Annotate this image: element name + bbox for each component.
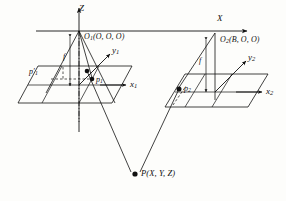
- right-ray-to-world-point: [140, 89, 179, 172]
- left-plane-gridline-v1: [42, 66, 62, 103]
- stereo-geometry-figure: Z X O1(O, O, O) O2(B, O, O) y1 x1 y2 x2 …: [0, 0, 286, 201]
- left-y1-subscript: 1: [116, 48, 119, 55]
- world-x-axis-label: X: [217, 14, 223, 23]
- right-x2-axis-label: x2: [266, 87, 273, 97]
- right-point-p2-label: p2: [184, 85, 191, 94]
- left-origin-coords: (O, O, O): [93, 32, 125, 41]
- left-y1-axis-line: [79, 54, 110, 85]
- world-point-P: [132, 171, 137, 176]
- left-point-p1-prime-label: p′1: [29, 68, 38, 77]
- left-point-p1-label: p1: [96, 76, 103, 85]
- left-origin-label: O1(O, O, O): [84, 33, 124, 42]
- left-ray-to-world-point: [87, 71, 131, 172]
- P-coords: (X, Y, Z): [146, 168, 175, 178]
- right-y2-axis-line: [215, 61, 246, 92]
- left-ray-left-edge: [46, 31, 79, 93]
- left-y1-axis-label: y1: [112, 46, 119, 56]
- left-focal-length-label: f: [63, 53, 65, 61]
- right-origin-coords: (B, O, O): [229, 35, 260, 44]
- left-x1-axis-label: x1: [130, 80, 137, 90]
- right-origin-label: O2(B, O, O): [220, 36, 260, 45]
- left-camera-group: [18, 8, 232, 172]
- left-x1-subscript: 1: [134, 82, 137, 89]
- world-z-axis-label: Z: [79, 4, 84, 13]
- p2-subscript: 2: [188, 87, 191, 93]
- right-ray-through-p2: [178, 33, 215, 89]
- right-y2-subscript: 2: [252, 55, 255, 62]
- right-focal-length-label: f: [199, 57, 201, 65]
- world-point-P-label: P(X, Y, Z): [141, 169, 175, 178]
- right-x2-subscript: 2: [270, 89, 273, 96]
- p1-subscript: 1: [100, 78, 103, 84]
- p1-prime-subscript: 1: [35, 70, 38, 76]
- right-y2-axis-label: y2: [248, 53, 255, 63]
